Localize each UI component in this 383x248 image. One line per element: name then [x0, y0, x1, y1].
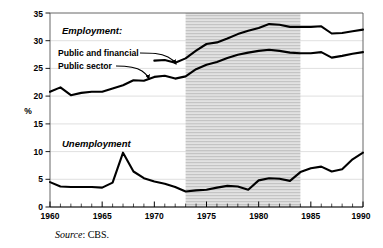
x-tick-label-1985: 1985: [301, 211, 320, 221]
x-axis-tick-labels: 1960 1965 1970 1975 1980 1985 1990: [41, 211, 371, 221]
employment-heading-label: Employment:: [62, 25, 122, 36]
y-tick-label-20: 20: [34, 91, 44, 101]
x-tick-label-1990: 1990: [352, 211, 371, 221]
annotation-unemployment: Unemployment: [62, 138, 131, 149]
x-tick-label-1970: 1970: [145, 211, 164, 221]
source-note: Source: CBS.: [55, 229, 109, 240]
x-tick-label-1960: 1960: [41, 211, 60, 221]
x-tick-label-1965: 1965: [93, 211, 112, 221]
y-tick-label-5: 5: [38, 174, 43, 184]
x-tick-label-1975: 1975: [197, 211, 216, 221]
y-tick-label-30: 30: [34, 36, 44, 46]
y-axis-tick-labels: 0 5 10 15 20 25 30 35: [34, 9, 44, 213]
y-tick-label-35: 35: [34, 9, 44, 19]
y-tick-label-25: 25: [34, 63, 44, 73]
y-axis-ticks: [46, 13, 51, 207]
y-tick-label-15: 15: [34, 119, 44, 129]
source-value: CBS.: [88, 229, 109, 240]
public-and-financial-label: Public and financial: [58, 48, 139, 58]
unemployment-label: Unemployment: [62, 138, 131, 149]
line-chart: 0 5 10 15 20 25 30 35 %: [0, 0, 383, 248]
y-tick-label-10: 10: [34, 147, 44, 157]
y-axis-unit-label: %: [24, 106, 32, 116]
chart-figure: 0 5 10 15 20 25 30 35 %: [0, 0, 383, 248]
public-sector-label: Public sector: [58, 61, 113, 71]
annotation-employment-heading: Employment:: [62, 25, 122, 36]
source-prefix: Source: [55, 229, 82, 240]
recession-shaded-band: [186, 13, 301, 207]
x-tick-label-1980: 1980: [249, 211, 268, 221]
